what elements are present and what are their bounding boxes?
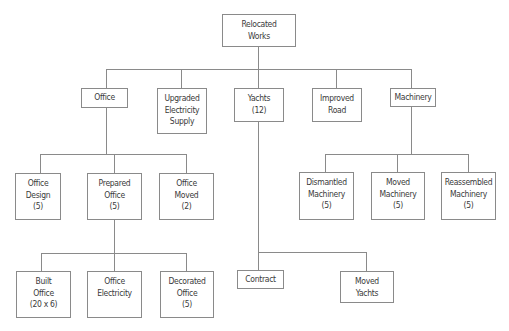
node-label: (20 x 6) (17, 299, 70, 311)
connector (40, 154, 41, 173)
node-label: Relocated (223, 19, 295, 31)
node-label: Office (88, 190, 141, 202)
node-label: (2) (160, 201, 213, 213)
connector (366, 252, 367, 271)
node-label: Machinery (372, 189, 424, 201)
node-label: Machinery (391, 92, 435, 104)
node-dismantled-machinery: Dismantled Machinery (5) (299, 172, 354, 220)
node-label: Office (88, 276, 141, 288)
node-contract: Contract (237, 270, 284, 289)
node-label: Works (223, 31, 295, 43)
node-label: Office (82, 92, 127, 104)
node-label: (12) (235, 105, 283, 117)
node-label: (5) (372, 200, 424, 212)
node-label: Supply (158, 116, 206, 128)
node-label: Upgraded (158, 93, 206, 105)
node-office-design: Office Design (5) (15, 173, 61, 220)
connector (258, 252, 367, 253)
node-label: Moved (341, 276, 393, 288)
node-label: Office (17, 288, 70, 300)
node-label: Moved (160, 190, 213, 202)
connector (114, 154, 115, 173)
node-label: Electricity (158, 105, 206, 117)
node-label: Contract (238, 274, 283, 286)
connector (258, 46, 259, 69)
node-label: Improved (313, 93, 361, 105)
node-label: Dismantled (300, 177, 353, 189)
node-label: (5) (300, 200, 353, 212)
node-reassembled-machinery: Reassembled Machinery (5) (441, 172, 496, 220)
node-label: Electricity (88, 288, 141, 300)
connector (114, 253, 115, 271)
node-label: Office (16, 178, 60, 190)
node-relocated-works: Relocated Works (222, 14, 296, 47)
node-moved-yachts: Moved Yachts (340, 271, 394, 303)
connector (106, 107, 107, 154)
node-label: Road (313, 105, 361, 117)
node-office-moved: Office Moved (2) (159, 173, 214, 220)
node-label: Decorated (161, 276, 213, 288)
connector (468, 154, 469, 172)
node-prepared-office: Prepared Office (5) (87, 173, 142, 220)
node-label: (5) (442, 200, 495, 212)
connector (186, 253, 187, 271)
node-machinery: Machinery (390, 88, 436, 107)
connector (411, 106, 412, 154)
node-decorated-office: Decorated Office (5) (160, 271, 214, 318)
node-label: Yachts (341, 288, 393, 300)
connector (181, 69, 182, 88)
node-label: Prepared (88, 178, 141, 190)
node-label: Yachts (235, 93, 283, 105)
connector (258, 69, 259, 88)
connector (106, 69, 412, 70)
node-label: Design (16, 190, 60, 202)
node-label: (5) (16, 201, 60, 213)
connector (41, 253, 42, 271)
node-label: Built (17, 276, 70, 288)
connector (258, 121, 259, 270)
node-label: Moved (372, 177, 424, 189)
node-label: Office (161, 288, 213, 300)
node-label: (5) (161, 299, 213, 311)
connector (336, 69, 337, 88)
connector (186, 154, 187, 173)
connector (397, 154, 398, 172)
node-label: Office (160, 178, 213, 190)
node-office-electricity: Office Electricity (87, 271, 142, 318)
node-label: Machinery (300, 189, 353, 201)
wbs-diagram: Relocated Works Office Upgraded Electric… (0, 0, 509, 331)
node-upgraded-electricity-supply: Upgraded Electricity Supply (157, 88, 207, 134)
node-built-office: Built Office (20 x 6) (16, 271, 71, 318)
node-label: Machinery (442, 189, 495, 201)
connector (325, 154, 326, 172)
node-label: Reassembled (442, 177, 495, 189)
node-office: Office (81, 88, 128, 108)
connector (411, 69, 412, 88)
node-label: (5) (88, 201, 141, 213)
node-improved-road: Improved Road (312, 88, 362, 122)
node-moved-machinery: Moved Machinery (5) (371, 172, 425, 220)
connector (114, 219, 115, 253)
node-yachts: Yachts (12) (234, 88, 284, 122)
connector (106, 69, 107, 88)
